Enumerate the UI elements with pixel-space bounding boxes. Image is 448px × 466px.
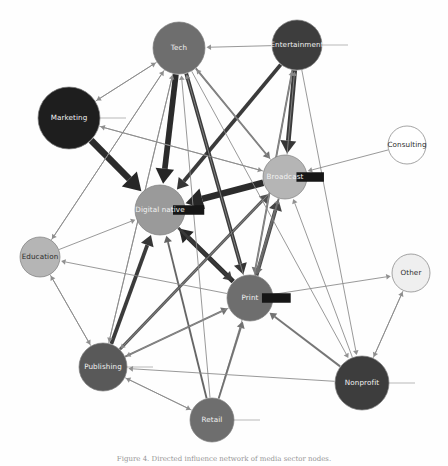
node-other[interactable]: Other (392, 254, 430, 292)
figure-caption: Figure 4. Directed influence network of … (0, 455, 448, 464)
node-publishing[interactable]: Publishing (79, 343, 153, 391)
edge-nonprofit-to-print[interactable] (270, 313, 341, 367)
node-education[interactable]: Education (20, 237, 60, 277)
network-graph-canvas[interactable]: TechEntertainmentMarketingConsultingBroa… (0, 0, 448, 466)
node-entertainment[interactable]: Entertainment (270, 20, 348, 70)
edge-entertainment-to-tech[interactable] (206, 44, 271, 50)
edge-other-to-nonprofit[interactable] (373, 291, 403, 357)
edge-nonprofit-to-publishing[interactable] (128, 366, 334, 381)
node-broadcast[interactable]: Broadcast (263, 155, 324, 199)
edge-nonprofit-to-broadcast[interactable] (292, 199, 352, 357)
edge-retail-to-digital_native[interactable] (164, 236, 207, 398)
node-nonprofit[interactable]: Nonprofit (335, 356, 415, 410)
edge-print-to-publishing[interactable] (126, 308, 229, 357)
edge-education-to-digital_native[interactable] (59, 219, 135, 250)
network-graph-figure: TechEntertainmentMarketingConsultingBroa… (0, 0, 448, 466)
node-print[interactable]: Print (227, 275, 291, 321)
edge-publishing-to-retail[interactable] (125, 378, 191, 411)
edge-print-to-other[interactable] (273, 274, 391, 294)
edge-broadcast-to-marketing[interactable] (100, 125, 263, 171)
edge-marketing-to-digital_native[interactable] (91, 140, 141, 191)
edge-publishing-to-digital_native[interactable] (111, 235, 153, 344)
node-consulting[interactable]: Consulting (387, 126, 426, 164)
edge-entertainment-to-nonprofit[interactable] (302, 70, 359, 355)
node-digital_native[interactable]: Digital native (135, 185, 204, 235)
edge-retail-to-print[interactable] (219, 321, 245, 398)
node-retail[interactable]: Retail (190, 398, 260, 442)
edge-tech-to-digital_native[interactable] (156, 74, 176, 183)
edge-education-to-publishing[interactable] (50, 275, 90, 345)
node-tech[interactable]: Tech (153, 22, 205, 74)
node-marketing[interactable]: Marketing (38, 87, 126, 149)
edge-digital_native-to-print[interactable] (178, 228, 232, 281)
